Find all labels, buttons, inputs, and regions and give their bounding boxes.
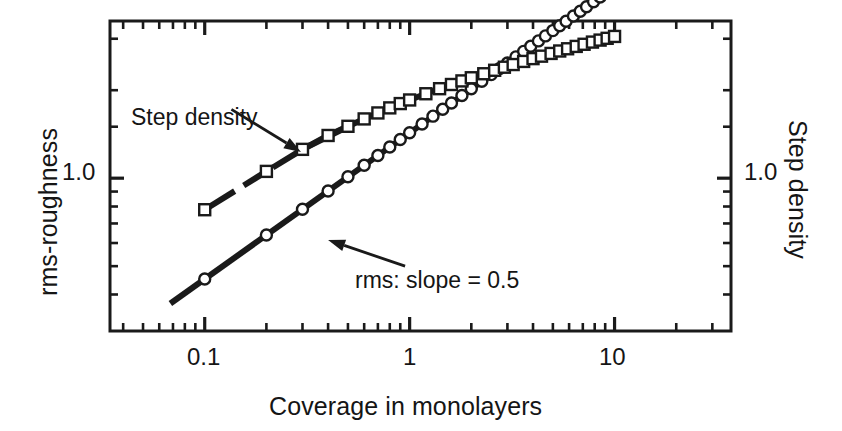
figure-canvas: rms-roughness Step density Coverage in m…	[0, 0, 842, 431]
step-density-annotation	[231, 109, 301, 152]
plot-area	[0, 0, 842, 431]
series-markers	[199, 0, 620, 284]
rms-slope-annotation	[328, 240, 405, 266]
